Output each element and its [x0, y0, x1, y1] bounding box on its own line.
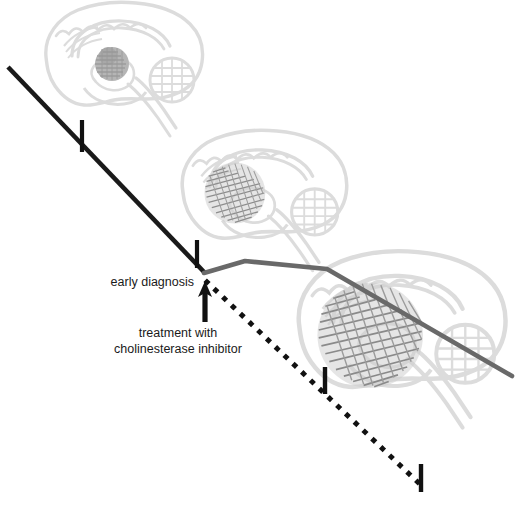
brain-mid-stage — [182, 130, 347, 270]
treatment-arrow — [198, 281, 212, 322]
early-diagnosis-label: early diagnosis — [111, 275, 194, 289]
figure-container: early diagnosis treatment with cholinest… — [0, 0, 515, 505]
brain-early-stage — [46, 2, 203, 136]
series-pre-diagnosis-decline — [8, 67, 205, 273]
treatment-label-line-2: cholinesterase inhibitor — [114, 342, 242, 356]
progression-diagram: early diagnosis treatment with cholinest… — [0, 0, 515, 505]
treatment-label-line-1: treatment with — [139, 326, 218, 340]
